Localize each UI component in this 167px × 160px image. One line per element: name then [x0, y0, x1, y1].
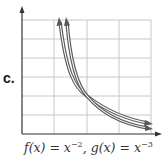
graph [0, 0, 167, 140]
f-definition: f(x) = x [24, 140, 71, 155]
chart-caption: f(x) = x−2, g(x) = x−3 [24, 140, 153, 155]
curve-f [57, 17, 154, 126]
f-exponent: −2 [71, 140, 83, 149]
curve-g [64, 17, 153, 131]
g-exponent: −3 [141, 140, 153, 149]
g-definition: g(x) = x [91, 140, 141, 155]
grid [22, 20, 151, 134]
caption-separator: , [83, 140, 91, 155]
axes [20, 6, 163, 137]
